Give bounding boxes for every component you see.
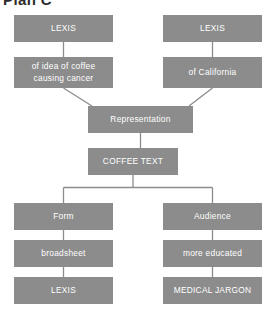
node-more-educated[interactable]: more educated	[163, 240, 262, 267]
node-label: Representation	[91, 114, 190, 125]
node-medical-jargon[interactable]: MEDICAL JARGON	[163, 277, 262, 304]
node-form[interactable]: Form	[14, 203, 113, 230]
node-label: LEXIS	[17, 23, 110, 34]
edge-california-to-representation	[189, 88, 213, 106]
node-label: LEXIS	[166, 23, 259, 34]
node-label: broadsheet	[17, 248, 110, 259]
node-audience[interactable]: Audience	[163, 203, 262, 230]
page-title: Plan C	[3, 0, 52, 8]
node-label: more educated	[166, 248, 259, 259]
node-lexis-right[interactable]: LEXIS	[163, 15, 262, 42]
node-label: Form	[17, 211, 110, 222]
node-of-california[interactable]: of California	[163, 57, 262, 88]
node-coffee-text[interactable]: COFFEE TEXT	[88, 148, 178, 175]
node-label: COFFEE TEXT	[91, 156, 175, 167]
node-label: Audience	[166, 211, 259, 222]
node-label: LEXIS	[17, 285, 110, 296]
node-broadsheet[interactable]: broadsheet	[14, 240, 113, 267]
diagram-canvas: Plan C LEXIS of idea of coffee causing c…	[0, 0, 277, 317]
node-label: of idea of coffee causing cancer	[17, 61, 110, 84]
edge-idea-to-representation	[64, 88, 93, 106]
node-label: MEDICAL JARGON	[166, 285, 259, 296]
node-idea-of-coffee-causing-cancer[interactable]: of idea of coffee causing cancer	[14, 57, 113, 88]
node-lexis-bottom[interactable]: LEXIS	[14, 277, 113, 304]
node-label: of California	[166, 67, 259, 78]
node-representation[interactable]: Representation	[88, 106, 193, 133]
node-lexis-left[interactable]: LEXIS	[14, 15, 113, 42]
